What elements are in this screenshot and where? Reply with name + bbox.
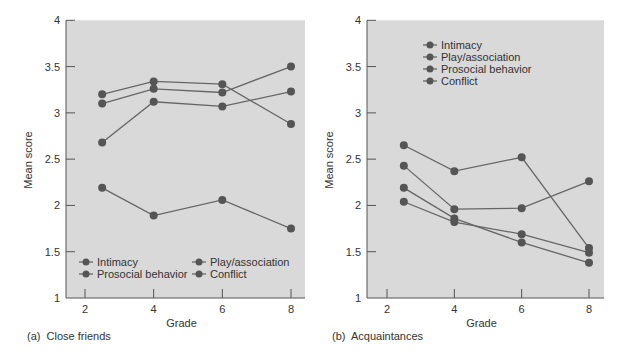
x-tick-label: 2 xyxy=(82,303,88,315)
y-tick-label: 2 xyxy=(54,199,60,211)
data-point xyxy=(150,212,158,220)
chart-close-friends: 11.522.533.542468GradeMean scoreIntimacy… xyxy=(22,14,305,329)
data-point xyxy=(218,196,226,204)
y-tick-label: 1 xyxy=(54,292,60,304)
legend-label: Conflict xyxy=(210,268,247,280)
y-tick-label: 2.5 xyxy=(346,153,361,165)
data-point xyxy=(218,80,226,88)
data-point xyxy=(518,153,526,161)
y-axis-label: Mean score xyxy=(323,131,335,188)
data-point xyxy=(98,90,106,98)
data-point xyxy=(585,177,593,185)
data-point xyxy=(218,89,226,97)
x-tick-label: 2 xyxy=(384,303,390,315)
data-point xyxy=(150,98,158,106)
x-tick-label: 8 xyxy=(288,303,294,315)
x-tick-label: 4 xyxy=(151,303,157,315)
x-tick-label: 8 xyxy=(586,303,592,315)
legend-label: Intimacy xyxy=(441,39,482,51)
x-tick-label: 6 xyxy=(219,303,225,315)
x-tick-label: 4 xyxy=(451,303,457,315)
legend-marker-icon xyxy=(196,259,203,266)
y-tick-label: 1.5 xyxy=(45,246,60,258)
data-point xyxy=(400,184,408,192)
data-point xyxy=(450,205,458,213)
legend-marker-icon xyxy=(427,78,434,85)
data-point xyxy=(450,167,458,175)
data-point xyxy=(585,259,593,267)
legend-label: Prosocial behavior xyxy=(97,268,188,280)
data-point xyxy=(98,100,106,108)
data-point xyxy=(400,198,408,206)
legend-label: Play/association xyxy=(441,51,521,63)
data-point xyxy=(518,230,526,238)
data-point xyxy=(150,77,158,85)
data-point xyxy=(150,85,158,93)
data-point xyxy=(400,141,408,149)
y-tick-label: 2.5 xyxy=(45,153,60,165)
legend-label: Intimacy xyxy=(97,256,138,268)
figure: 11.522.533.542468GradeMean scoreIntimacy… xyxy=(0,0,627,358)
y-tick-label: 2 xyxy=(355,199,361,211)
legend-marker-icon xyxy=(427,54,434,61)
y-tick-label: 4 xyxy=(54,14,60,26)
data-point xyxy=(218,102,226,110)
y-tick-label: 3.5 xyxy=(45,61,60,73)
caption-acquaintances: (b) Acquaintances xyxy=(332,330,423,342)
legend-label: Conflict xyxy=(441,75,478,87)
chart-acquaintances: 11.522.533.542468GradeMean scoreIntimacy… xyxy=(323,14,604,329)
y-tick-label: 3 xyxy=(54,107,60,119)
caption-close-friends: (a) Close friends xyxy=(27,330,111,342)
x-axis-label: Grade xyxy=(166,317,197,329)
x-axis-label: Grade xyxy=(466,317,497,329)
data-point xyxy=(585,249,593,257)
x-tick-label: 6 xyxy=(519,303,525,315)
data-point xyxy=(98,184,106,192)
data-point xyxy=(287,63,295,71)
data-point xyxy=(518,204,526,212)
data-point xyxy=(450,218,458,226)
legend-label: Play/association xyxy=(210,256,290,268)
y-tick-label: 4 xyxy=(355,14,361,26)
y-tick-label: 3 xyxy=(355,107,361,119)
data-point xyxy=(287,88,295,96)
y-tick-label: 1 xyxy=(355,292,361,304)
data-point xyxy=(98,138,106,146)
y-tick-label: 3.5 xyxy=(346,61,361,73)
legend-marker-icon xyxy=(83,271,90,278)
legend-marker-icon xyxy=(83,259,90,266)
legend-marker-icon xyxy=(427,66,434,73)
data-point xyxy=(287,225,295,233)
legend-label: Prosocial behavior xyxy=(441,63,532,75)
legend-marker-icon xyxy=(196,271,203,278)
legend-marker-icon xyxy=(427,42,434,49)
data-point xyxy=(287,120,295,128)
data-point xyxy=(400,162,408,170)
y-axis-label: Mean score xyxy=(22,131,34,188)
data-point xyxy=(518,238,526,246)
y-tick-label: 1.5 xyxy=(346,246,361,258)
